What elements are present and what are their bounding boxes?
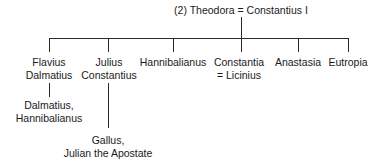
grandchild-line1: Gallus,: [64, 134, 153, 147]
grandchild-line-constantius: [108, 83, 109, 128]
child-constantia: Constantia = Licinius: [214, 56, 264, 82]
child-eutropia: Eutropia: [328, 56, 367, 69]
child-drop-line: [173, 38, 174, 52]
child-julius-constantius: Julius Constantius: [81, 56, 136, 82]
child-name-line2: Dalmatius: [26, 69, 73, 82]
grandchildren-gallus-julian: Gallus, Julian the Apostate: [64, 134, 153, 160]
root-stem-line: [241, 17, 242, 38]
child-drop-line: [108, 38, 109, 52]
child-name-line1: Hannibalianus: [140, 56, 207, 69]
child-name-line1: Julius: [81, 56, 136, 69]
child-drop-line: [348, 38, 349, 52]
grandchildren-dalmatius-hannibalianus: Dalmatius, Hannibalianus: [16, 99, 83, 125]
grandchild-line2: Julian the Apostate: [64, 147, 153, 160]
root-couple-label: (2) Theodora = Constantius I: [174, 4, 308, 17]
child-name-line2: Constantius: [81, 69, 136, 82]
child-name-line1: Flavius: [26, 56, 73, 69]
child-drop-line: [49, 38, 50, 52]
child-flavius-dalmatius: Flavius Dalmatius: [26, 56, 73, 82]
sibling-bar-line: [49, 38, 349, 39]
child-anastasia: Anastasia: [275, 56, 321, 69]
child-name-line1: Constantia: [214, 56, 264, 69]
child-drop-line: [298, 38, 299, 52]
child-name-line1: Eutropia: [328, 56, 367, 69]
child-hannibalianus: Hannibalianus: [140, 56, 207, 69]
child-drop-line: [241, 38, 242, 52]
grandchild-line1: Dalmatius,: [16, 99, 83, 112]
grandchild-line-dalmatius: [49, 83, 50, 97]
child-name-line1: Anastasia: [275, 56, 321, 69]
grandchild-line2: Hannibalianus: [16, 112, 83, 125]
child-name-line2: = Licinius: [214, 69, 264, 82]
